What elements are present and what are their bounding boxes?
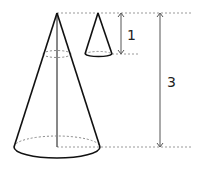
large-cone-left-edge xyxy=(14,13,57,147)
small-cone-base-front xyxy=(85,54,112,57)
small-cone-left-edge xyxy=(85,13,98,54)
large-height-arrow xyxy=(157,13,163,147)
small-cone-base-back xyxy=(85,51,112,54)
cones-diagram: 1 3 xyxy=(0,0,198,172)
large-cone-right-edge xyxy=(57,13,100,147)
large-cone xyxy=(14,13,100,158)
small-cone-right-edge xyxy=(98,13,112,54)
small-cone xyxy=(85,13,112,57)
small-height-arrow xyxy=(118,13,124,54)
small-height-label: 1 xyxy=(127,27,136,43)
large-height-label: 3 xyxy=(167,74,176,90)
large-cone-base-front xyxy=(14,147,100,158)
